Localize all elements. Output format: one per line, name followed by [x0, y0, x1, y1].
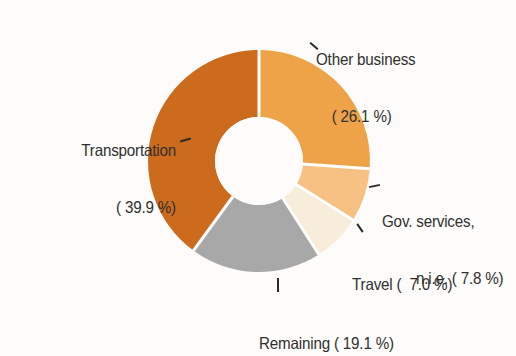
slice-label-transportation: Transportation ( 39.9 %) [40, 103, 176, 255]
slice-label-transportation-name: Transportation [40, 141, 176, 160]
leader-remaining [277, 278, 279, 292]
donut-hole [215, 117, 303, 205]
slice-label-other-business-value: ( 26.1 %) [316, 107, 416, 126]
slice-label-remaining: Remaining ( 19.1 %) [259, 296, 394, 356]
slice-label-gov-services-name: Gov. services, [382, 212, 503, 231]
slice-label-other-business-name: Other business [316, 50, 416, 69]
slice-label-transportation-value: ( 39.9 %) [40, 198, 176, 217]
slice-label-other-business: Other business ( 26.1 %) [316, 12, 416, 164]
slice-label-remaining-text: Remaining ( 19.1 %) [259, 334, 394, 353]
slice-label-travel-text: Travel ( 7.0 %) [352, 275, 452, 294]
